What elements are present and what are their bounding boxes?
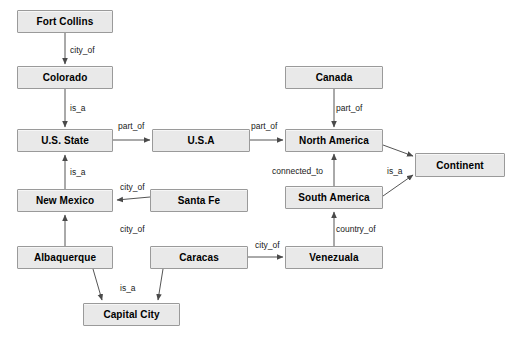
node-canada[interactable]: Canada: [285, 66, 383, 89]
edge-label-e1: city_of: [70, 45, 95, 55]
node-albaquerque[interactable]: Albaquerque: [17, 246, 113, 269]
edge-line: [383, 145, 413, 156]
edge-label-e12: is_a: [120, 283, 136, 293]
node-label: Caracas: [179, 252, 219, 263]
edge-label-e10: city_of: [120, 182, 145, 192]
edge-label-e2: is_a: [70, 103, 86, 113]
node-label: U.S.A: [187, 135, 214, 146]
node-label: Venezuala: [309, 252, 358, 263]
node-label: North America: [299, 135, 369, 146]
node-usa[interactable]: U.S.A: [152, 129, 250, 152]
edge-label-e15: country_of: [336, 224, 376, 234]
node-north_america[interactable]: North America: [285, 129, 383, 152]
edge-label-e9: is_a: [70, 167, 86, 177]
edge-line: [117, 197, 150, 200]
node-continent[interactable]: Continent: [415, 153, 505, 177]
node-label: Albaquerque: [34, 252, 96, 263]
node-label: Capital City: [103, 309, 159, 320]
edge-line: [158, 269, 163, 300]
node-label: Continent: [436, 160, 484, 171]
node-label: New Mexico: [36, 195, 94, 206]
node-label: Fort Collins: [37, 16, 94, 27]
edge-label-e8: connected_to: [272, 166, 323, 176]
node-us_state[interactable]: U.S. State: [17, 129, 113, 152]
node-new_mexico[interactable]: New Mexico: [17, 189, 113, 212]
edge-line: [383, 175, 413, 196]
edge-line: [93, 269, 102, 300]
edge-label-e4: part_of: [251, 121, 277, 131]
node-capital_city[interactable]: Capital City: [83, 303, 180, 326]
edge-label-e14: city_of: [255, 240, 280, 250]
node-label: Colorado: [43, 72, 88, 83]
edge-label-e5: part_of: [336, 103, 362, 113]
diagram-canvas: Fort CollinsColoradoU.S. StateU.S.ACanad…: [0, 0, 521, 337]
node-label: Santa Fe: [178, 195, 220, 206]
node-fort_collins[interactable]: Fort Collins: [17, 10, 113, 33]
node-caracas[interactable]: Caracas: [150, 246, 248, 269]
node-colorado[interactable]: Colorado: [17, 66, 113, 89]
node-label: Canada: [316, 72, 353, 83]
node-south_america[interactable]: South America: [285, 186, 383, 209]
edge-label-e6: is_a: [387, 166, 403, 176]
edge-label-e3: part_of: [118, 121, 144, 131]
edge-label-e11: city_of: [120, 224, 145, 234]
node-label: U.S. State: [41, 135, 89, 146]
node-santa_fe[interactable]: Santa Fe: [150, 189, 248, 212]
node-venezuala[interactable]: Venezuala: [285, 246, 383, 269]
node-label: South America: [298, 192, 370, 203]
